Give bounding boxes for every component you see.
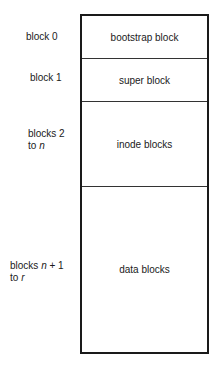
range-label-block-1: block 1	[30, 72, 62, 84]
range-label-text: block 0	[26, 31, 58, 42]
section-label: super block	[119, 75, 170, 86]
range-label-prefix: blocks	[10, 260, 41, 271]
range-label-variable: r	[21, 272, 24, 283]
section-label: data blocks	[119, 264, 170, 275]
section-bootstrap-block: bootstrap block	[82, 16, 207, 58]
range-label-line1: blocks n + 1	[10, 260, 64, 272]
disk-layout-box: bootstrap block super block inode blocks…	[80, 14, 209, 354]
range-label-blocks-n1-to-r: blocks n + 1 to r	[10, 260, 64, 284]
range-label-line2: to n	[28, 140, 65, 152]
section-inode-blocks: inode blocks	[82, 102, 207, 186]
range-label-block-0: block 0	[26, 31, 58, 43]
range-label-line1: blocks 2	[28, 128, 65, 140]
range-label-blocks-2-to-n: blocks 2 to n	[28, 128, 65, 152]
range-label-variable: n	[39, 140, 45, 151]
range-label-text: block 1	[30, 72, 62, 83]
section-label: bootstrap block	[111, 32, 179, 43]
section-label: inode blocks	[117, 139, 173, 150]
section-data-blocks: data blocks	[82, 187, 207, 352]
range-label-prefix: to	[10, 272, 21, 283]
range-label-prefix: to	[28, 140, 39, 151]
range-label-suffix: + 1	[47, 260, 64, 271]
section-super-block: super block	[82, 59, 207, 101]
range-label-line2: to r	[10, 272, 64, 284]
